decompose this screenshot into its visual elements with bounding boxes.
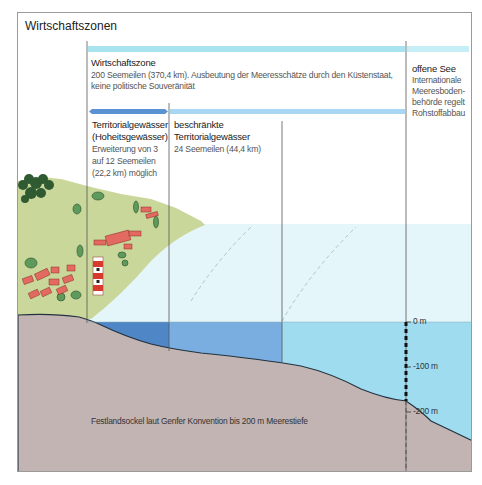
wirtschaftszone-line2: keine politische Souveränität — [91, 81, 195, 93]
territorial-line: Erweiterung von 3 — [92, 144, 158, 156]
diagram-frame: Wirtschaftszonen Wirtschaftszone 200 See… — [17, 12, 472, 472]
depth-label-100: -100 m — [413, 361, 438, 371]
restricted-heading-1: beschränkte — [174, 119, 224, 130]
restricted-heading-2: Territorialgewässer — [174, 131, 250, 142]
offene-see-line: Rohstoffabbau — [412, 108, 465, 120]
territorial-heading-1: Territorialgewässer — [92, 119, 168, 130]
wirtschaftszone-heading: Wirtschaftszone — [91, 57, 156, 68]
territorial-arrow — [89, 109, 168, 114]
lighthouse-icon — [93, 257, 103, 295]
territorial-heading-2: (Hoheitsgewässer) — [92, 131, 168, 142]
restricted-line: 24 Seemeilen (44,4 km) — [174, 144, 261, 156]
depth-label-200: -200 m — [413, 406, 438, 416]
festlandsockel-label: Festlandsockel laut Genfer Konvention bi… — [91, 416, 308, 426]
territorial-line: (22,2 km) möglich — [92, 168, 157, 180]
wirtschaftszone-line1: 200 Seemeilen (370,4 km). Ausbeutung der… — [91, 70, 393, 82]
diagram-title: Wirtschaftszonen — [25, 19, 117, 33]
depth-label-0: 0 m — [413, 316, 426, 326]
offene-see-line: behörde regelt — [412, 97, 465, 109]
offene-see-line: Internationale — [412, 75, 461, 87]
territorial-line: auf 12 Seemeilen — [92, 156, 156, 168]
offene-see-band — [407, 46, 469, 52]
cross-section-illustration — [18, 13, 472, 472]
offene-see-line: Meeresboden- — [412, 86, 465, 98]
offene-see-heading: offene See — [412, 63, 456, 74]
restricted-band — [170, 109, 405, 114]
wirtschaftszone-band — [88, 46, 405, 52]
